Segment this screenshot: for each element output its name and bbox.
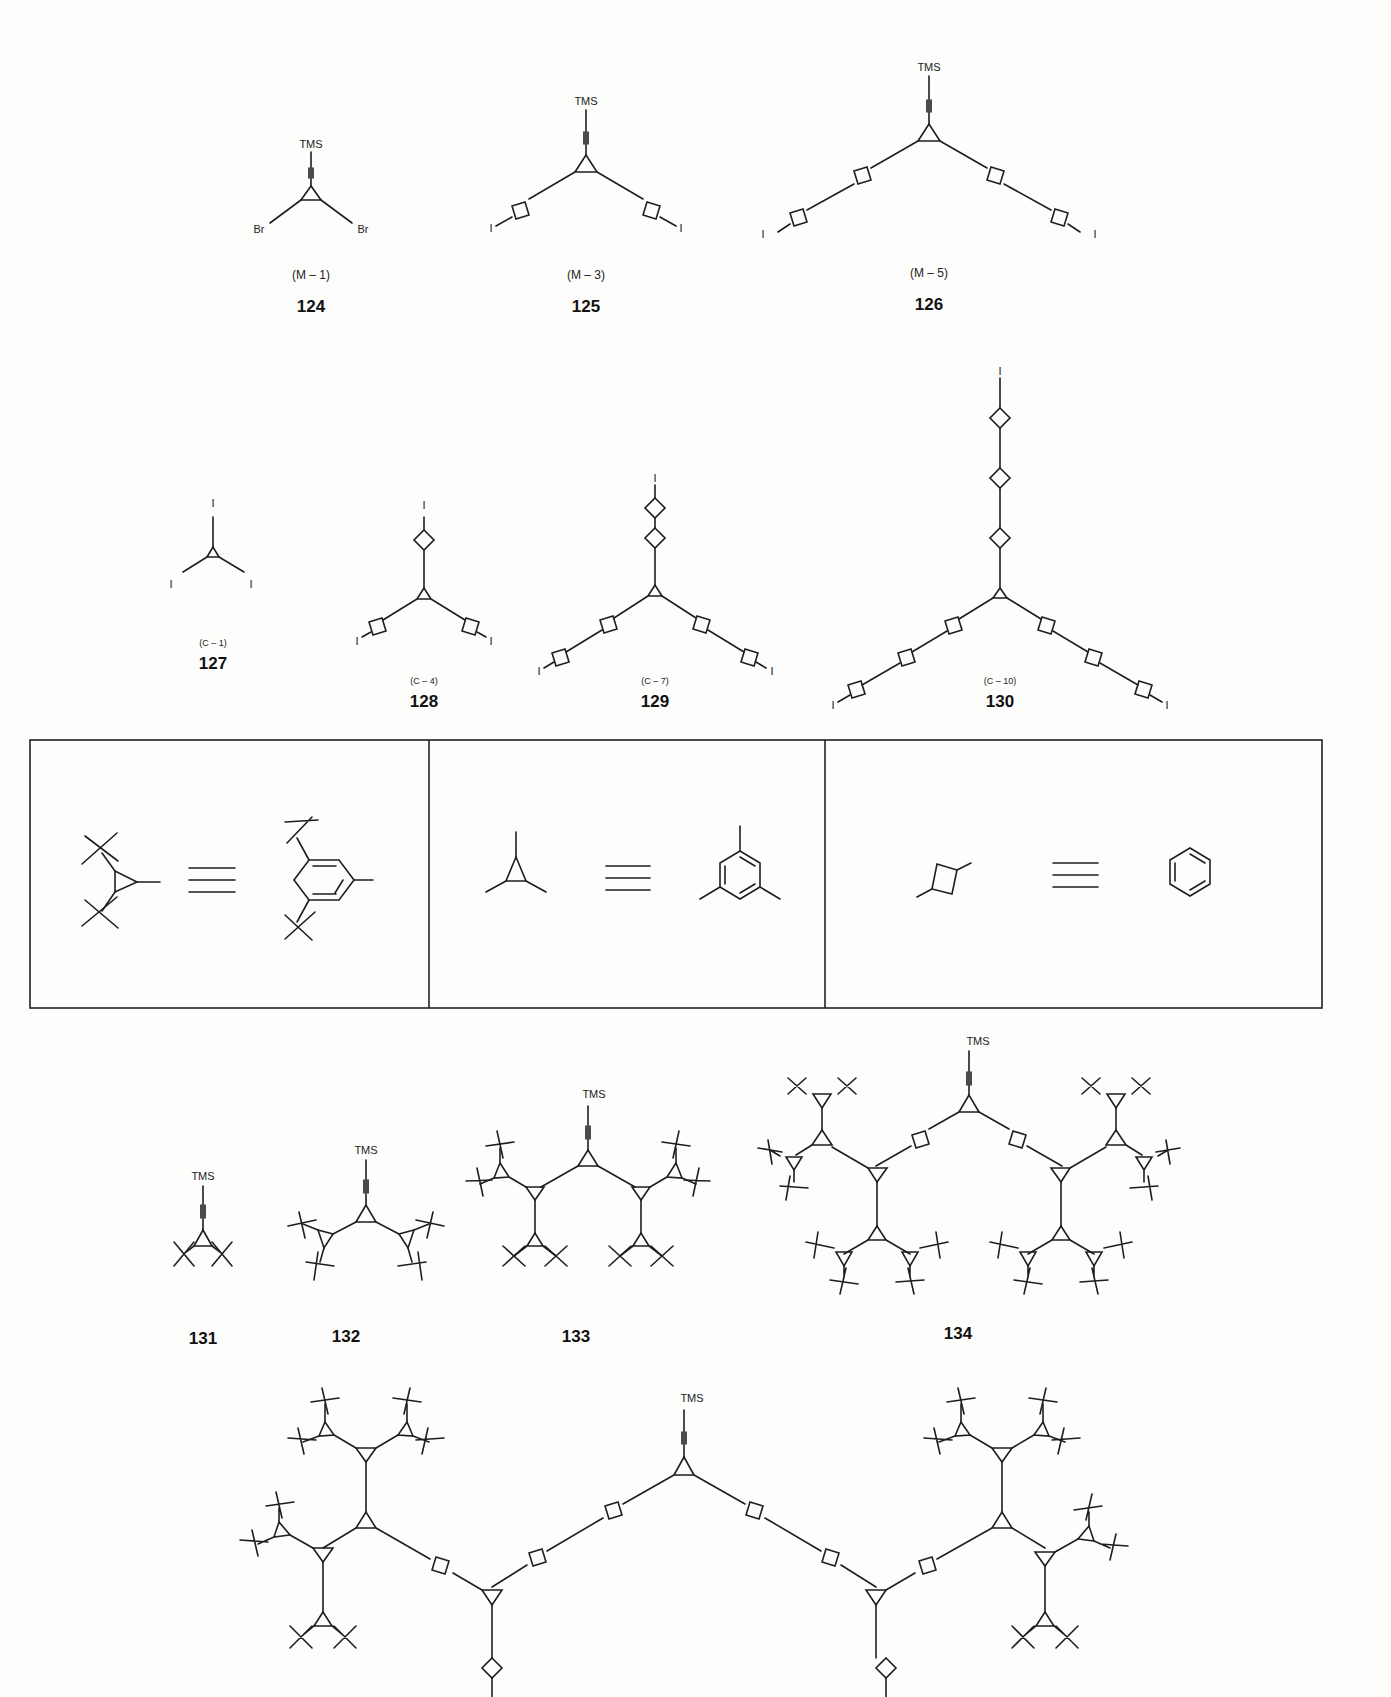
compound-code-129: (C – 7) [641,676,669,686]
substituent-label-128-left: I [355,635,358,647]
legend-panel-1 [82,817,373,940]
compound-number-130: 130 [986,692,1014,712]
substituent-label-127-top: I [211,497,214,509]
terminal-label-131: TMS [191,1170,214,1182]
substituent-label-127-right: I [249,578,252,590]
substituent-label-129-top: I [653,472,656,484]
compound-number-128: 128 [410,692,438,712]
substituent-label-126-left: I [761,228,764,240]
compound-code-126: (M – 5) [910,266,948,280]
substituent-label-130-left: I [831,699,834,711]
substituent-label-130-top: I [998,365,1001,377]
compound-code-124: (M – 1) [292,268,330,282]
compound-132-structure [288,1160,444,1280]
compound-number-133: 133 [562,1327,590,1347]
compound-number-134: 134 [944,1324,972,1344]
terminal-label-135: TMS [680,1392,703,1404]
compound-129-structure [544,485,766,668]
substituent-label-127-left: I [169,578,172,590]
terminal-label-126: TMS [917,61,940,73]
compound-number-124: 124 [297,297,325,317]
structures-canvas [0,0,1391,1697]
substituent-label-128-right: I [489,635,492,647]
compound-number-132: 132 [332,1327,360,1347]
substituent-label-128-top: I [422,499,425,511]
compound-124-structure [270,152,352,223]
terminal-label-134: TMS [966,1035,989,1047]
compound-number-131: 131 [189,1329,217,1349]
compound-126-structure [778,76,1080,232]
substituent-label-129-right: I [770,665,773,677]
compound-127-structure [183,517,244,572]
terminal-label-133: TMS [582,1088,605,1100]
substituent-label-126-right: I [1093,228,1096,240]
compound-131-structure [174,1186,232,1266]
compound-number-125: 125 [572,297,600,317]
compound-135-structure [240,1388,1128,1697]
legend-box [30,740,1322,1008]
compound-134-structure [758,1051,1180,1294]
compound-code-130: (C – 10) [984,676,1017,686]
terminal-label-125: TMS [574,95,597,107]
terminal-label-124: TMS [299,138,322,150]
substituent-label-130-right: I [1165,699,1168,711]
legend-panel-3 [917,848,1210,897]
substituent-label-125-right: I [679,222,682,234]
compound-number-129: 129 [641,692,669,712]
substituent-label-124-left: Br [254,223,265,235]
compound-133-structure [466,1106,710,1266]
terminal-label-132: TMS [354,1144,377,1156]
compound-code-125: (M – 3) [567,268,605,282]
compound-code-127: (C – 1) [199,638,227,648]
substituent-label-124-right: Br [358,223,369,235]
legend-panel-2 [486,826,780,899]
substituent-label-125-left: I [489,222,492,234]
compound-130-structure [838,378,1162,702]
compound-128-structure [362,517,486,637]
compound-number-126: 126 [915,295,943,315]
substituent-label-129-left: I [537,665,540,677]
compound-125-structure [496,110,676,226]
compound-code-128: (C – 4) [410,676,438,686]
compound-number-127: 127 [199,654,227,674]
